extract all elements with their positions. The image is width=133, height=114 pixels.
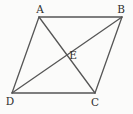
vertex-label-a: A [35, 3, 44, 15]
vertex-label-c: C [91, 96, 99, 108]
vertex-label-b: B [117, 3, 125, 15]
vertex-label-d: D [6, 95, 14, 107]
geometry-figure: ABCDE [0, 0, 133, 114]
geometry-diagram-svg: ABCDE [0, 0, 133, 114]
vertex-label-e: E [69, 49, 77, 61]
